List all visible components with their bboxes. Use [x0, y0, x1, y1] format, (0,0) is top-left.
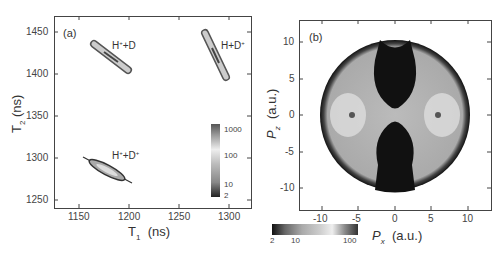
panel-b-xtick: -5	[352, 213, 361, 224]
panel-b-ytick: -5	[285, 146, 294, 157]
panel-b-xlabel: Px (a.u.)	[372, 228, 422, 246]
panel-a-xtick: 1300	[218, 211, 240, 222]
panel-b-colorbar-tick: 100	[343, 236, 356, 245]
panel-a-ytick: 1300	[26, 152, 48, 163]
annotation-h-d-plus: H+D+	[221, 40, 245, 51]
panel-a-ytick: 1350	[26, 110, 48, 121]
panel-b-xtick: 0	[392, 213, 398, 224]
panel-a-colorbar	[211, 124, 220, 197]
panel-a-ytick: 1250	[26, 194, 48, 205]
panel-b-label: (b)	[309, 31, 322, 43]
panel-a-label: (a)	[63, 27, 76, 39]
panel-b-xtick: 5	[428, 213, 434, 224]
panel-a-ylabel: T2 (ns)	[9, 84, 27, 144]
panel-a-xtick: 1250	[168, 211, 190, 222]
panel-b-ylabel: Pz (a.u.)	[264, 79, 282, 149]
panel-a-colorbar-tick: 100	[224, 151, 237, 160]
panel-a-colorbar-tick: 1000	[224, 125, 242, 134]
panel-a-ytick: 1400	[26, 68, 48, 79]
panel-b-ytick: -10	[280, 182, 294, 193]
panel-a-xlabel: T1 (ns)	[128, 224, 170, 242]
panel-b-xtick: -10	[313, 213, 327, 224]
panel-a-colorbar-tick: 10	[224, 180, 233, 189]
annotation-h-plus-d-plus: H++D+	[112, 150, 139, 161]
annotation-h-plus-d: H++D	[112, 40, 136, 51]
panel-b-plot-frame	[299, 20, 492, 211]
panel-b-xtick: 10	[462, 213, 473, 224]
panel-a-colorbar-tick: 2	[224, 191, 228, 200]
panel-a-xtick: 1150	[68, 211, 90, 222]
panel-a-xtick: 1200	[118, 211, 140, 222]
panel-b-colorbar-tick: 10	[291, 236, 300, 245]
panel-b-ytick: 0	[289, 109, 295, 120]
panel-b-ytick: 5	[289, 73, 295, 84]
panel-b-colorbar-tick: 2	[270, 236, 274, 245]
panel-a-ytick: 1450	[26, 26, 48, 37]
panel-b-ytick: 10	[283, 36, 294, 47]
panel-b-colorbar	[272, 224, 358, 235]
